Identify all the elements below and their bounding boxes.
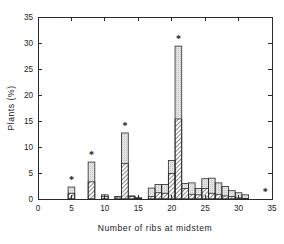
- x-tick-label: 10: [100, 204, 110, 213]
- plot-frame: [38, 17, 272, 199]
- y-axis-title: Plants (%): [6, 85, 16, 130]
- x-tick-label: 25: [201, 204, 211, 213]
- asterisk-marker: *: [176, 33, 181, 44]
- axis-ticks: [38, 17, 272, 199]
- x-tick-label: 35: [267, 204, 277, 213]
- x-tick-label: 30: [234, 204, 244, 213]
- bar-segment-hatched: [162, 193, 169, 199]
- asterisk-marker: *: [89, 149, 94, 160]
- chart-canvas: 0510152025303505101520253035 ***** Numbe…: [0, 0, 284, 244]
- bar-segment-hatched: [195, 195, 202, 199]
- bar-segment-hatched: [175, 119, 182, 199]
- histogram-figure: 0510152025303505101520253035 ***** Numbe…: [0, 0, 284, 244]
- bar-segment-hatched: [155, 193, 162, 199]
- y-tick-label: 20: [24, 91, 34, 100]
- bar-segment-hatched: [222, 196, 229, 199]
- y-tick-label: 35: [24, 13, 34, 22]
- asterisk-marker: *: [263, 186, 268, 197]
- bar-segment-hatched: [208, 193, 215, 199]
- y-tick-label: 15: [24, 117, 34, 126]
- bar-segment-hatched: [88, 182, 95, 199]
- x-tick-label: 5: [69, 204, 74, 213]
- x-tick-label: 20: [167, 204, 177, 213]
- bar-segment-hatched: [122, 164, 129, 199]
- x-axis-title: Number of ribs at midstem: [98, 223, 213, 233]
- axis-tick-labels: 0510152025303505101520253035: [24, 13, 277, 213]
- y-tick-label: 0: [28, 195, 33, 204]
- bar-outlines: [68, 46, 249, 199]
- asterisk-marker: *: [69, 174, 74, 185]
- y-tick-label: 30: [24, 39, 34, 48]
- y-tick-label: 10: [24, 143, 34, 152]
- x-tick-label: 0: [36, 204, 41, 213]
- y-tick-label: 5: [28, 169, 33, 178]
- bar-segment-hatched: [182, 189, 189, 199]
- y-tick-label: 25: [24, 65, 34, 74]
- bar-segment-hatched: [215, 194, 222, 199]
- bar-segment-hatched: [188, 194, 195, 199]
- asterisk-marker: *: [122, 120, 127, 131]
- x-tick-label: 15: [134, 204, 144, 213]
